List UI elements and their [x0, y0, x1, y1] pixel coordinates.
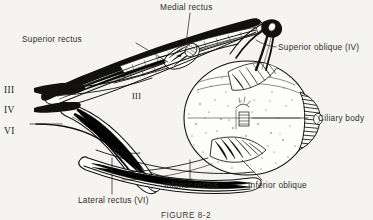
label-ciliary-body: Ciliary body — [318, 113, 365, 123]
label-nerve-three-inner: III — [132, 92, 141, 101]
label-nerve-six-left: VI — [4, 126, 15, 136]
label-nerve-three-left: III — [4, 85, 15, 95]
label-superior-oblique: Superior oblique (IV) — [278, 42, 359, 52]
label-lateral-rectus: Lateral rectus (VI) — [78, 195, 149, 205]
anatomical-figure: Medial rectus Superior rectus Superior o… — [0, 0, 373, 220]
label-medial-rectus: Medial rectus — [160, 2, 213, 12]
label-inferior-rectus: Inferior rectus — [164, 180, 218, 190]
label-inferior-oblique: Inferior oblique — [248, 180, 307, 190]
label-superior-rectus: Superior rectus — [22, 34, 82, 44]
label-nerve-four-left: IV — [4, 105, 15, 115]
figure-caption: FIGURE 8-2 — [161, 211, 211, 220]
